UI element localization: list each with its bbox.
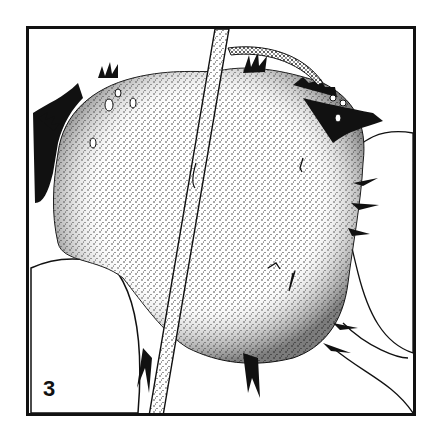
illustration-frame [26,26,416,416]
illustration-figure: 3 [0,0,431,429]
plant-illustration [29,29,413,413]
panel-number: 3 [43,378,55,400]
